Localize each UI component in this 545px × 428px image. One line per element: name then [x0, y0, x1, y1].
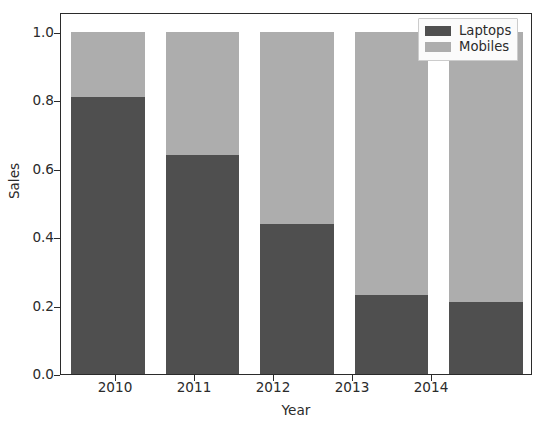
- x-tick-label-2014: 2014: [391, 381, 471, 395]
- bar-segment-laptops-2013: [355, 295, 429, 374]
- y-tick-label-1.0: 1.0: [0, 26, 54, 40]
- legend-swatch-mobiles: [425, 42, 451, 52]
- bar-segment-laptops-2014: [449, 302, 523, 374]
- bar-group-2011: [166, 32, 240, 374]
- legend-item-mobiles: Mobiles: [425, 39, 511, 55]
- legend-swatch-laptops: [425, 26, 451, 36]
- x-tick-label-2010: 2010: [75, 381, 155, 395]
- bars-container: [61, 14, 531, 374]
- x-tick-label-2011: 2011: [154, 381, 234, 395]
- bar-segment-mobiles-2012: [260, 32, 334, 224]
- chart-legend: Laptops Mobiles: [418, 18, 518, 61]
- bar-group-2012: [260, 32, 334, 374]
- bar-segment-mobiles-2014: [449, 32, 523, 302]
- x-tick-label-2013: 2013: [312, 381, 392, 395]
- y-tick-label-0.0: 0.0: [0, 368, 54, 382]
- bar-group-2010: [71, 32, 145, 374]
- bar-segment-mobiles-2013: [355, 32, 429, 295]
- bar-segment-mobiles-2011: [166, 32, 240, 155]
- bar-segment-mobiles-2010: [71, 32, 145, 97]
- y-tick-label-0.8: 0.8: [0, 94, 54, 108]
- y-tick-label-0.2: 0.2: [0, 300, 54, 314]
- bar-segment-laptops-2012: [260, 224, 334, 374]
- bar-segment-laptops-2011: [166, 155, 240, 374]
- x-axis-label: Year: [60, 402, 532, 418]
- legend-item-laptops: Laptops: [425, 23, 511, 39]
- bar-segment-laptops-2010: [71, 97, 145, 374]
- bar-group-2014: [449, 32, 523, 374]
- y-tick-label-0.6: 0.6: [0, 163, 54, 177]
- y-tick-label-0.4: 0.4: [0, 231, 54, 245]
- y-tick-mark-0.0: [54, 375, 60, 376]
- figure-canvas: Sales 1.0 0.8 0.6 0.4 0.2 0.0 2010 2011 …: [0, 0, 545, 428]
- legend-label-laptops: Laptops: [459, 24, 511, 37]
- legend-label-mobiles: Mobiles: [459, 40, 509, 53]
- plot-axes: [60, 13, 532, 375]
- bar-group-2013: [355, 32, 429, 374]
- x-tick-label-2012: 2012: [233, 381, 313, 395]
